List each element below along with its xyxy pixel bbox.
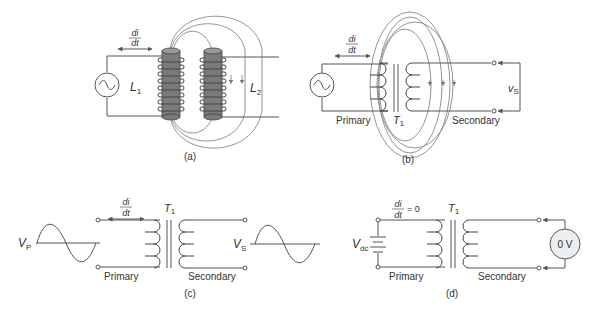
didt-denominator: dt bbox=[122, 208, 130, 218]
didt-equals-zero: = 0 bbox=[407, 204, 420, 214]
transformer-diagram: di dt L1 L2 (a) bbox=[0, 0, 596, 311]
didt-numerator: di bbox=[131, 28, 139, 38]
transformer-label: T1 bbox=[393, 114, 405, 128]
caption-b: (b) bbox=[402, 154, 414, 165]
primary-label: Primary bbox=[389, 271, 423, 282]
didt-numerator: di bbox=[348, 34, 356, 44]
inductor-2-label: L2 bbox=[250, 81, 262, 97]
didt-numerator: di bbox=[394, 199, 402, 209]
transformer-label: T1 bbox=[164, 202, 176, 216]
ac-source-icon bbox=[310, 73, 334, 97]
dc-battery-icon bbox=[370, 222, 386, 265]
didt-denominator: dt bbox=[394, 210, 402, 220]
secondary-label: Secondary bbox=[478, 271, 526, 282]
didt-numerator: di bbox=[122, 197, 130, 207]
didt-denominator: dt bbox=[131, 38, 139, 48]
secondary-label: Secondary bbox=[452, 115, 500, 126]
ac-source-icon bbox=[95, 73, 119, 97]
panel-b: di dt vS Primary T1 Secondary (b) bbox=[310, 12, 520, 165]
output-voltage-label: VS bbox=[233, 237, 246, 253]
primary-label: Primary bbox=[336, 115, 370, 126]
sine-wave-icon bbox=[250, 225, 320, 263]
output-voltage-label: vS bbox=[508, 82, 519, 96]
panel-a: di dt L1 L2 (a) bbox=[95, 16, 279, 162]
transformer-icon bbox=[370, 63, 420, 112]
voltmeter-icon: 0 V bbox=[550, 229, 580, 259]
transformer-icon bbox=[427, 220, 478, 268]
flux-lines bbox=[370, 12, 454, 158]
didt-denominator: dt bbox=[348, 45, 356, 55]
dc-source-label: Vdc bbox=[352, 237, 368, 253]
caption-a: (a) bbox=[184, 151, 196, 162]
primary-label: Primary bbox=[104, 271, 138, 282]
secondary-label: Secondary bbox=[188, 271, 236, 282]
inductor-coil-icon bbox=[158, 48, 184, 120]
transformer-label: T1 bbox=[448, 202, 460, 216]
caption-d: (d) bbox=[446, 288, 458, 299]
input-voltage-label: VP bbox=[18, 236, 31, 252]
inductor-1-label: L1 bbox=[130, 80, 142, 96]
transformer-icon bbox=[145, 220, 194, 268]
panel-c: VP di dt T1 VS Primary Secondary (c) bbox=[18, 197, 320, 299]
panel-d: di dt = 0 Vdc T1 bbox=[352, 199, 580, 299]
caption-c: (c) bbox=[184, 288, 196, 299]
inductor-coil-icon bbox=[200, 48, 226, 120]
meter-reading: 0 V bbox=[557, 239, 572, 250]
sine-wave-icon bbox=[36, 224, 100, 262]
